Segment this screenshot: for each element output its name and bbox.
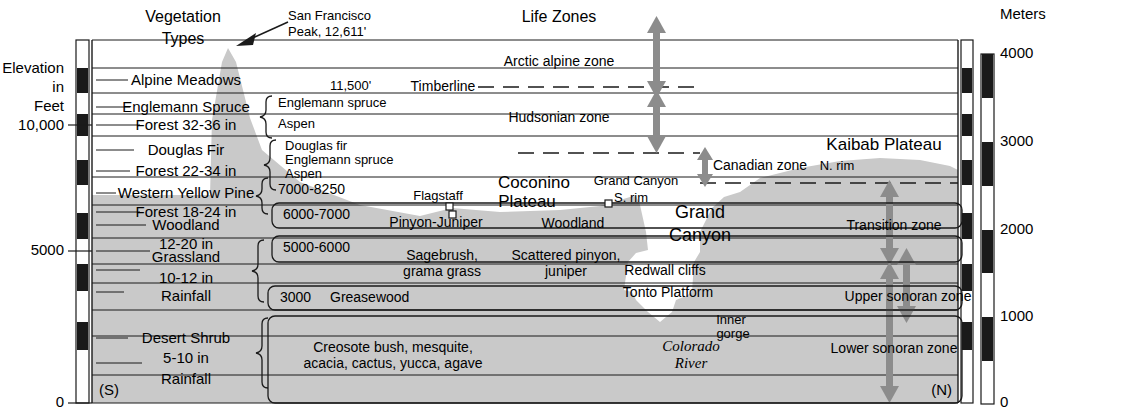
label-flagstaff: Flagstaff — [413, 189, 463, 202]
label-tonto-platform: Tonto Platform — [623, 285, 713, 299]
label-inner-gorge-l1: Inner — [716, 313, 746, 326]
life-zone-transition: Transition zone — [846, 218, 941, 232]
axis-tick-left-5000: 5000 — [31, 242, 64, 257]
veg-grassland-l1: Grassland — [152, 249, 220, 264]
label-colorado-river-l1: Colorado — [662, 339, 720, 354]
band-aspen: Aspen — [278, 117, 315, 130]
band-englemann-spruce-2: Englemann spruce — [285, 153, 393, 166]
life-zone-canadian: Canadian zone — [713, 158, 807, 172]
left-scale-bar — [68, 40, 92, 403]
header-vegetation-types-line1: Vegetation — [145, 9, 221, 25]
veg-alpine-meadows: Alpine Meadows — [131, 72, 241, 87]
label-colorado-river-l2: River — [675, 356, 707, 371]
axis-tick-right-2000: 2000 — [1000, 221, 1033, 236]
veg-rainfall-1: Rainfall — [161, 288, 211, 303]
axis-tick-right-3000: 3000 — [1000, 133, 1033, 148]
veg-englemann-spruce-l1: Englemann Spruce — [122, 99, 250, 114]
peak-callout-arrow — [236, 22, 288, 46]
band-7000-8250: 7000-8250 — [278, 182, 345, 196]
veg-desert-shrub-l2: 5-10 in — [163, 350, 209, 365]
label-scattered-pinyon-l1: Scattered pinyon, — [512, 248, 621, 262]
veg-grassland-l2: 10-12 in — [159, 270, 213, 285]
axis-tick-left-10000: 10,000 — [18, 117, 64, 132]
arrow-hudsonian — [647, 90, 666, 153]
band-3000: 3000 — [280, 290, 311, 304]
veg-douglas-fir-l2: Forest 22-34 in — [136, 163, 237, 178]
axis-title-meters: Meters — [1000, 6, 1046, 21]
label-greasewood: Greasewood — [330, 290, 409, 304]
label-pinyon-juniper: Pinyon-Juniper — [389, 215, 482, 229]
life-zone-hudsonian: Hudsonian zone — [508, 110, 609, 124]
veg-englemann-spruce-l2: Forest 32-36 in — [136, 117, 237, 132]
axis-tick-right-1000: 1000 — [1000, 308, 1033, 323]
life-zone-upper-sonoran: Upper sonoran zone — [845, 289, 972, 303]
arrow-arctic-alpine — [647, 16, 666, 98]
axis-tick-right-4000: 4000 — [1000, 45, 1033, 60]
axis-title-elevation-line1: Elevation — [2, 60, 64, 75]
life-zone-lower-sonoran: Lower sonoran zone — [831, 341, 958, 355]
peak-callout-line1: San Francisco — [288, 9, 371, 22]
label-kaibab-plateau: Kaibab Plateau — [826, 136, 941, 153]
label-scattered-pinyon-l2: juniper — [545, 264, 587, 278]
band-englemann-spruce: Englemann spruce — [278, 96, 386, 109]
peak-callout-line2: Peak, 12,611' — [288, 25, 366, 38]
band-5000-6000: 5000-6000 — [283, 240, 350, 254]
veg-douglas-fir-l1: Douglas Fir — [148, 142, 225, 157]
axis-title-elevation-line2: in — [52, 79, 64, 94]
header-vegetation-types-line2: Types — [162, 31, 205, 47]
right-scale-bar — [958, 40, 994, 404]
label-woodland-mid: Woodland — [542, 216, 605, 230]
veg-woodland-l1: Woodland — [152, 217, 219, 232]
label-redwall-cliffs: Redwall cliffs — [624, 263, 705, 277]
label-grand-canyon-l1: Grand — [675, 203, 725, 221]
label-coconino-plateau-l2: Plateau — [498, 193, 556, 210]
label-creosote-l2: acacia, cactus, yucca, agave — [304, 356, 483, 370]
label-coconino-plateau-l1: Coconino — [498, 174, 570, 191]
axis-tick-right-0: 0 — [1000, 394, 1008, 409]
veg-western-yellow-pine-l1: Western Yellow Pine — [118, 185, 254, 200]
label-inner-gorge-l2: gorge — [716, 327, 749, 340]
band-11500: 11,500' — [330, 79, 371, 92]
figure-canvas: Elevation in Feet 10,000 5000 0 Meters 4… — [0, 0, 1122, 420]
axis-title-elevation-line3: Feet — [34, 98, 64, 113]
band-aspen-2: Aspen — [285, 167, 322, 180]
marker-south: (S) — [99, 382, 119, 397]
label-north-rim: N. rim — [820, 159, 855, 172]
band-douglas-fir: Douglas fir — [285, 139, 347, 152]
marker-north: (N) — [931, 382, 952, 397]
axis-tick-left-0: 0 — [56, 394, 64, 409]
label-sagebrush-l2: grama grass — [403, 264, 481, 278]
header-life-zones: Life Zones — [522, 9, 597, 25]
label-grand-canyon-south-rim-l2: S. rim — [614, 191, 648, 204]
veg-desert-shrub-l3: Rainfall — [161, 371, 211, 386]
veg-desert-shrub-l1: Desert Shrub — [142, 330, 230, 345]
life-zone-arctic-alpine: Arctic alpine zone — [504, 54, 615, 68]
label-timberline: Timberline — [411, 79, 476, 93]
label-grand-canyon-south-rim-l1: Grand Canyon — [594, 174, 679, 187]
label-sagebrush-l1: Sagebrush, — [406, 248, 478, 262]
label-grand-canyon-l2: Canyon — [669, 226, 731, 244]
band-6000-7000: 6000-7000 — [283, 207, 350, 221]
label-creosote-l1: Creosote bush, mesquite, — [313, 340, 473, 354]
